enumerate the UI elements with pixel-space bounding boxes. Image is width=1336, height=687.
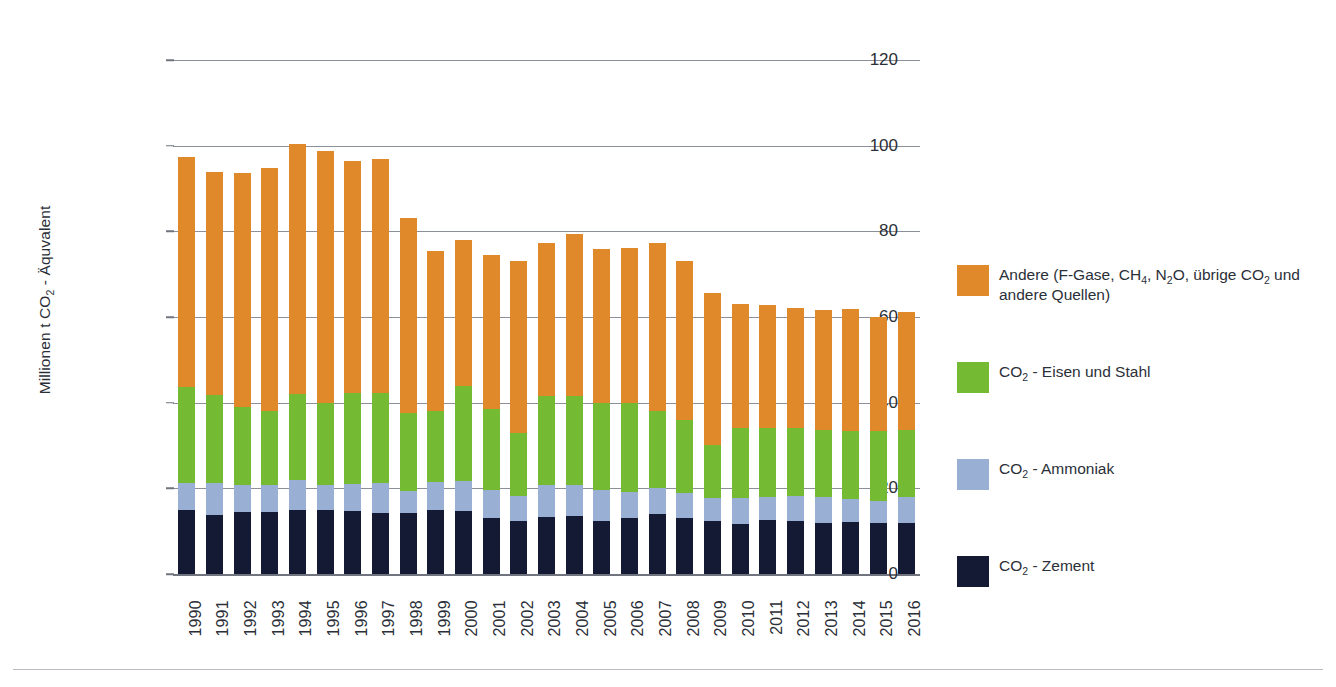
stacked-bar[interactable]: [206, 172, 223, 574]
stacked-bar[interactable]: [234, 173, 251, 574]
bar-segment[interactable]: [704, 445, 721, 498]
bar-segment[interactable]: [787, 308, 804, 428]
bar-segment[interactable]: [455, 481, 472, 511]
bar-segment[interactable]: [234, 485, 251, 512]
bar-segment[interactable]: [289, 394, 306, 480]
bar-segment[interactable]: [870, 431, 887, 501]
bar-segment[interactable]: [455, 386, 472, 481]
bar-segment[interactable]: [234, 173, 251, 407]
bar-segment[interactable]: [317, 510, 334, 574]
bar-segment[interactable]: [732, 498, 749, 524]
bar-segment[interactable]: [510, 496, 527, 522]
bar-segment[interactable]: [732, 304, 749, 428]
bar-segment[interactable]: [400, 218, 417, 413]
bar-segment[interactable]: [178, 510, 195, 574]
bar-segment[interactable]: [483, 255, 500, 409]
stacked-bar[interactable]: [870, 317, 887, 574]
bar-segment[interactable]: [372, 483, 389, 513]
bar-segment[interactable]: [732, 428, 749, 497]
legend-item-zement[interactable]: CO2 - Zement: [957, 556, 1094, 587]
legend-item-ammoniak[interactable]: CO2 - Ammoniak: [957, 459, 1114, 490]
bar-segment[interactable]: [759, 305, 776, 429]
bar-segment[interactable]: [649, 411, 666, 487]
bar-segment[interactable]: [483, 518, 500, 574]
bar-segment[interactable]: [815, 430, 832, 497]
bar-segment[interactable]: [704, 521, 721, 574]
bar-segment[interactable]: [566, 485, 583, 516]
bar-segment[interactable]: [676, 261, 693, 420]
bar-segment[interactable]: [566, 516, 583, 574]
bar-segment[interactable]: [842, 309, 859, 431]
bar-segment[interactable]: [289, 480, 306, 510]
bar-segment[interactable]: [649, 514, 666, 574]
stacked-bar[interactable]: [455, 240, 472, 574]
stacked-bar[interactable]: [649, 243, 666, 574]
bar-segment[interactable]: [400, 413, 417, 491]
stacked-bar[interactable]: [372, 159, 389, 574]
bar-segment[interactable]: [649, 488, 666, 515]
legend-item-andere[interactable]: Andere (F-Gase, CH4, N2O, übrige CO2 und…: [957, 265, 1334, 304]
bar-segment[interactable]: [234, 512, 251, 574]
bar-segment[interactable]: [510, 433, 527, 496]
bar-segment[interactable]: [815, 310, 832, 430]
stacked-bar[interactable]: [566, 234, 583, 575]
stacked-bar[interactable]: [898, 312, 915, 574]
bar-segment[interactable]: [787, 521, 804, 574]
bar-segment[interactable]: [510, 261, 527, 432]
bar-segment[interactable]: [593, 249, 610, 402]
stacked-bar[interactable]: [759, 305, 776, 574]
bar-segment[interactable]: [621, 492, 638, 519]
bar-segment[interactable]: [178, 387, 195, 483]
bar-segment[interactable]: [759, 497, 776, 520]
stacked-bar[interactable]: [510, 261, 527, 574]
bar-segment[interactable]: [704, 293, 721, 445]
bar-segment[interactable]: [317, 485, 334, 509]
bar-segment[interactable]: [261, 168, 278, 411]
bar-segment[interactable]: [566, 396, 583, 485]
bar-segment[interactable]: [344, 511, 361, 574]
stacked-bar[interactable]: [787, 308, 804, 574]
bar-segment[interactable]: [787, 428, 804, 496]
stacked-bar[interactable]: [483, 255, 500, 574]
bar-segment[interactable]: [842, 522, 859, 574]
stacked-bar[interactable]: [621, 248, 638, 574]
bar-segment[interactable]: [898, 497, 915, 523]
bar-segment[interactable]: [372, 159, 389, 393]
bar-segment[interactable]: [704, 498, 721, 521]
bar-segment[interactable]: [289, 144, 306, 395]
bar-segment[interactable]: [870, 523, 887, 574]
bar-segment[interactable]: [898, 523, 915, 574]
bar-segment[interactable]: [676, 493, 693, 519]
bar-segment[interactable]: [483, 490, 500, 518]
bar-segment[interactable]: [372, 393, 389, 483]
bar-segment[interactable]: [344, 484, 361, 512]
bar-segment[interactable]: [400, 513, 417, 574]
bar-segment[interactable]: [261, 512, 278, 574]
bar-segment[interactable]: [289, 510, 306, 574]
bar-segment[interactable]: [538, 517, 555, 574]
bar-segment[interactable]: [759, 520, 776, 574]
bar-segment[interactable]: [649, 243, 666, 412]
stacked-bar[interactable]: [593, 249, 610, 574]
bar-segment[interactable]: [593, 403, 610, 490]
bar-segment[interactable]: [732, 524, 749, 574]
bar-segment[interactable]: [510, 521, 527, 574]
bar-segment[interactable]: [815, 523, 832, 574]
stacked-bar[interactable]: [815, 310, 832, 574]
bar-segment[interactable]: [621, 248, 638, 403]
bar-segment[interactable]: [427, 411, 444, 482]
bar-segment[interactable]: [538, 396, 555, 484]
bar-segment[interactable]: [538, 485, 555, 518]
bar-segment[interactable]: [538, 243, 555, 396]
bar-segment[interactable]: [621, 403, 638, 492]
bar-segment[interactable]: [483, 409, 500, 490]
legend-item-eisen-stahl[interactable]: CO2 - Eisen und Stahl: [957, 362, 1150, 393]
stacked-bar[interactable]: [178, 157, 195, 574]
stacked-bar[interactable]: [400, 218, 417, 574]
stacked-bar[interactable]: [344, 161, 361, 574]
bar-segment[interactable]: [206, 515, 223, 574]
bar-segment[interactable]: [455, 240, 472, 386]
bar-segment[interactable]: [815, 497, 832, 523]
bar-segment[interactable]: [621, 518, 638, 574]
stacked-bar[interactable]: [289, 144, 306, 574]
